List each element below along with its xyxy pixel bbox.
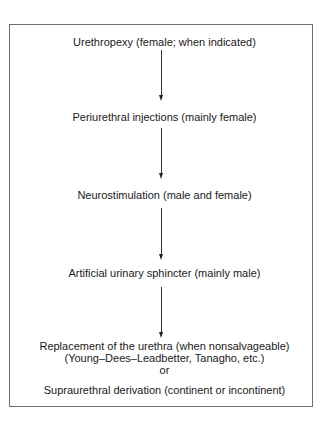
arrow-down-icon — [160, 208, 163, 260]
step-artificial-urinary-sphincter: Artificial urinary sphincter (mainly mal… — [0, 267, 329, 280]
step-urethropexy: Urethropexy (female; when indicated) — [0, 36, 329, 49]
step-or-connector: or — [0, 364, 329, 377]
step-supraurethral-derivation: Supraurethral derivation (continent or i… — [0, 384, 329, 397]
arrow-down-icon — [160, 50, 163, 101]
arrow-down-icon — [160, 287, 163, 338]
arrow-down-icon — [160, 128, 163, 179]
step-neurostimulation: Neurostimulation (male and female) — [0, 189, 329, 202]
step-periurethral-injections: Periurethral injections (mainly female) — [0, 111, 329, 124]
